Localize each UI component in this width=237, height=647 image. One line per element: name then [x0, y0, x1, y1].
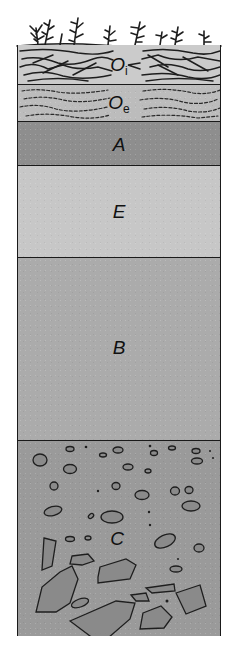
surface-vegetation-icon: [0, 0, 237, 50]
horizon-a: A: [18, 121, 220, 165]
horizon-label-e: E: [18, 202, 220, 221]
horizon-c: C: [18, 440, 220, 636]
horizon-b: B: [18, 257, 220, 440]
soil-column: Oi Oe A: [17, 45, 221, 636]
horizon-label-oi: Oi: [18, 55, 220, 77]
horizon-label-c: C: [18, 529, 220, 548]
horizon-oe: Oe: [18, 84, 220, 121]
horizon-e: E: [18, 165, 220, 257]
horizon-label-oe: Oe: [18, 93, 220, 115]
horizon-oi: Oi: [18, 45, 220, 84]
horizon-label-a: A: [18, 135, 220, 154]
horizon-label-b: B: [18, 338, 220, 357]
